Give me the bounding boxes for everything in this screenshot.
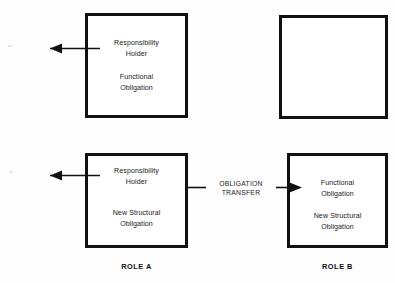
scan-speckle [9, 171, 13, 173]
box-label-functional-obligation: Functional Obligation [88, 72, 185, 93]
scan-speckle [8, 45, 12, 47]
box-label-new-structural-obligation: New Structural Obligation [88, 208, 185, 229]
diagram-canvas: Responsibility Holder Functional Obligat… [0, 0, 395, 283]
arrow-outgoing-top [36, 41, 104, 56]
arrow-outgoing-bottom [36, 168, 104, 183]
box-label-functional-obligation: Functional Obligation [290, 178, 385, 199]
box-role-b-before [279, 15, 388, 119]
caption-role-a: ROLE A [85, 262, 188, 271]
box-role-a-before: Responsibility Holder Functional Obligat… [85, 13, 188, 118]
caption-role-b: ROLE B [287, 262, 388, 271]
obligation-transfer-label: OBLIGATION TRANSFER [206, 178, 276, 198]
box-role-b-after: Functional Obligation New Structural Obl… [287, 153, 388, 248]
box-label-new-structural-obligation: New Structural Obligation [290, 211, 385, 232]
